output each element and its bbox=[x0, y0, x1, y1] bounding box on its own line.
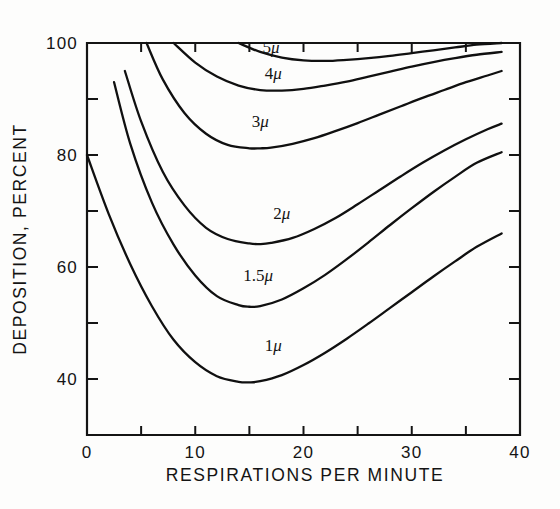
curve-label-4micron: 4μ bbox=[265, 64, 282, 83]
x-tick-label-40: 40 bbox=[509, 443, 530, 462]
curve-label-1-5micron: 1.5μ bbox=[243, 266, 273, 285]
curve-label-5micron: 5μ bbox=[263, 38, 280, 57]
y-tick-label-80: 80 bbox=[57, 146, 78, 165]
y-tick-label-100: 100 bbox=[46, 34, 78, 53]
y-axis-title: DEPOSITION, PERCENT bbox=[10, 123, 30, 355]
y-axis-tick-labels: 406080100 bbox=[46, 34, 78, 389]
curve-label-2micron: 2μ bbox=[273, 204, 290, 223]
curve-label-1micron: 1μ bbox=[265, 336, 282, 355]
curve-4micron bbox=[174, 43, 502, 91]
plot-axes bbox=[87, 43, 520, 435]
curve-1-5micron bbox=[114, 82, 502, 307]
x-tick-label-20: 20 bbox=[293, 443, 314, 462]
x-axis-ticks bbox=[141, 43, 466, 435]
x-axis-title: RESPIRATIONS PER MINUTE bbox=[166, 465, 445, 485]
data-curves bbox=[87, 43, 502, 383]
y-tick-label-40: 40 bbox=[57, 370, 78, 389]
chart-figure: 010203040 406080100 1μ1.5μ2μ3μ4μ5μ RESPI… bbox=[0, 0, 560, 509]
x-axis-tick-labels: 010203040 bbox=[82, 443, 531, 462]
y-tick-label-60: 60 bbox=[57, 258, 78, 277]
deposition-vs-respiration-chart: 010203040 406080100 1μ1.5μ2μ3μ4μ5μ RESPI… bbox=[0, 0, 560, 509]
curve-2micron bbox=[125, 71, 502, 244]
x-tick-label-0: 0 bbox=[82, 443, 93, 462]
curve-label-3micron: 3μ bbox=[252, 112, 269, 131]
axis-frame bbox=[87, 43, 520, 435]
curve-1micron bbox=[87, 155, 502, 383]
x-tick-label-10: 10 bbox=[185, 443, 206, 462]
x-tick-label-30: 30 bbox=[401, 443, 422, 462]
